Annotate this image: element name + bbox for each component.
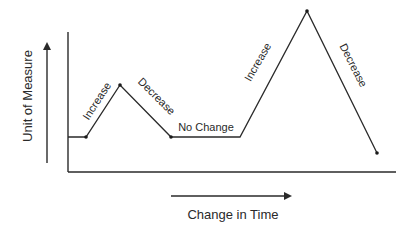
change-over-time-diagram: Unit of Measure Increase Decrease No Cha… bbox=[0, 0, 414, 236]
y-axis-label: Unit of Measure bbox=[20, 50, 35, 142]
annotation-increase-2: Increase bbox=[242, 41, 273, 84]
annotation-no-change: No Change bbox=[178, 121, 234, 133]
annotation-decrease-1: Decrease bbox=[136, 75, 178, 117]
data-point bbox=[305, 9, 309, 13]
data-point bbox=[118, 83, 122, 87]
data-point bbox=[169, 135, 173, 139]
data-point bbox=[375, 151, 379, 155]
x-axis-label: Change in Time bbox=[187, 207, 278, 222]
annotation-increase-1: Increase bbox=[80, 80, 113, 122]
data-point bbox=[84, 135, 88, 139]
